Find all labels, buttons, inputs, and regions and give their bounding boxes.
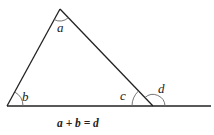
label-a: a — [57, 20, 64, 35]
arc-angle-c — [132, 91, 139, 106]
label-c: c — [120, 88, 126, 103]
label-d: d — [158, 81, 165, 96]
side-left — [7, 9, 60, 106]
side-right — [60, 9, 153, 106]
equation: a + b = d — [57, 117, 99, 129]
triangle-diagram: a b c d a + b = d — [0, 0, 214, 135]
label-b: b — [22, 89, 29, 104]
